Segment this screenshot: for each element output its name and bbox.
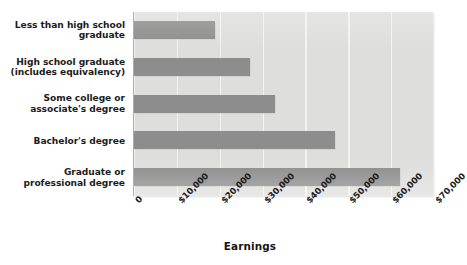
- bar: [134, 58, 250, 76]
- bar-row: [134, 122, 433, 159]
- bar: [134, 21, 215, 39]
- category-label: Graduate orprofessional degree: [0, 167, 125, 188]
- category-label-line: Some college or: [0, 93, 125, 104]
- category-label-line: Graduate or: [0, 167, 125, 178]
- bar-row: [134, 12, 433, 49]
- bar: [134, 131, 335, 149]
- bar-row: [134, 86, 433, 123]
- category-label-line: graduate: [0, 30, 125, 41]
- category-label-line: Less than high school: [0, 20, 125, 31]
- category-label: High school graduate(includes equivalenc…: [0, 57, 125, 78]
- category-axis: Less than high schoolgraduateHigh school…: [0, 12, 129, 196]
- category-label: Bachelor's degree: [0, 136, 125, 147]
- bar-row: [134, 49, 433, 86]
- category-label-line: (includes equivalency): [0, 67, 125, 78]
- category-label-line: Bachelor's degree: [0, 136, 125, 147]
- category-label-line: associate's degree: [0, 104, 125, 115]
- x-axis-tick-labels: 0$10,000$20,000$30,000$40,000$50,000$60,…: [0, 196, 456, 241]
- category-label: Some college orassociate's degree: [0, 93, 125, 114]
- x-tick-label: $70,000: [433, 171, 467, 205]
- plot-area: [133, 12, 433, 196]
- bar: [134, 95, 275, 113]
- category-label-line: professional degree: [0, 178, 125, 189]
- category-label: Less than high schoolgraduate: [0, 20, 125, 41]
- x-tick-label: 0: [133, 194, 144, 205]
- x-axis-title: Earnings: [0, 240, 456, 252]
- category-label-line: High school graduate: [0, 57, 125, 68]
